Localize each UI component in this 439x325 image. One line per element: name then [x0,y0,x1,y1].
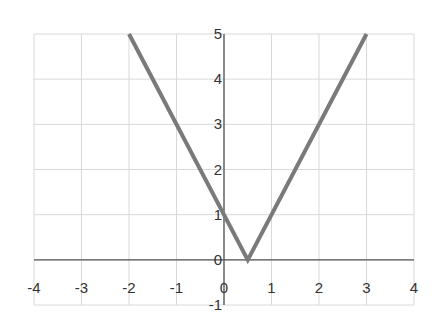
x-tick-label: -3 [75,279,88,296]
x-tick-labels: -4-3-2-101234 [27,279,418,296]
y-tick-label: 5 [214,25,222,42]
x-tick-label: 3 [362,279,370,296]
x-tick-label: -2 [122,279,135,296]
y-tick-label: 2 [214,161,222,178]
y-tick-label: 3 [214,115,222,132]
x-tick-label: -4 [27,279,40,296]
data-series [129,34,367,260]
x-tick-label: 4 [410,279,418,296]
x-tick-label: 2 [315,279,323,296]
y-tick-label: 1 [214,206,222,223]
y-tick-label: 4 [214,70,222,87]
y-tick-label: 0 [214,251,222,268]
chart: -4-3-2-101234 -1012345 [0,0,439,325]
x-tick-label: -1 [170,279,183,296]
y-tick-label: -1 [209,296,222,313]
x-tick-label: 1 [267,279,275,296]
x-tick-label: 0 [220,279,228,296]
series-line [129,34,367,260]
